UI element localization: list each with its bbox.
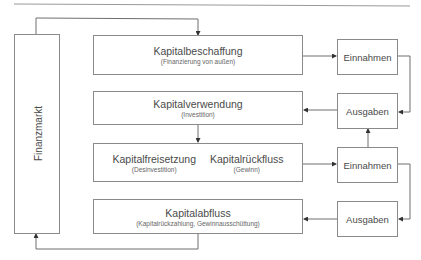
kapitalfreisetzung-rueckfluss-box: Kapitalfreisetzung (Desinvestition) Kapi…	[93, 143, 303, 182]
einnahmen-label-1: Einnahmen	[343, 52, 391, 63]
kapitalbeschaffung-box: Kapitalbeschaffung (Finanzierung von auß…	[93, 35, 303, 75]
kapitalrueckfluss-subtitle: (Gewinn)	[234, 166, 260, 173]
kapitalabfluss-subtitle: (Kapitalrückzahlung, Gewinnausschüttung)	[136, 220, 260, 227]
kapitalabfluss-title: Kapitalabfluss	[165, 207, 230, 219]
ausgaben-box-2: Ausgaben	[337, 201, 398, 237]
finanzmarkt-label: Finanzmarkt	[33, 84, 44, 184]
kapitalbeschaffung-title: Kapitalbeschaffung	[153, 45, 242, 57]
ausgaben-label-1: Ausgaben	[346, 106, 389, 117]
kapitalverwendung-title: Kapitalverwendung	[153, 98, 242, 110]
ausgaben-label-2: Ausgaben	[346, 214, 389, 225]
kapitalrueckfluss-title: Kapitalrückfluss	[210, 153, 284, 165]
kapitalfreisetzung-subtitle: (Desinvestition)	[132, 166, 177, 173]
kapitalverwendung-box: Kapitalverwendung (Investition)	[93, 91, 303, 125]
ausgaben-box-1: Ausgaben	[337, 93, 398, 129]
kapitalabfluss-box: Kapitalabfluss (Kapitalrückzahlung, Gewi…	[93, 199, 303, 234]
kapitalverwendung-subtitle: (Investition)	[181, 111, 215, 118]
kapitalbeschaffung-subtitle: (Finanzierung von außen)	[161, 58, 235, 65]
finanzmarkt-box: Finanzmarkt	[14, 34, 60, 234]
einnahmen-box-1: Einnahmen	[337, 39, 398, 75]
kapitalfreisetzung-title: Kapitalfreisetzung	[113, 153, 196, 165]
einnahmen-label-2: Einnahmen	[343, 160, 391, 171]
einnahmen-box-2: Einnahmen	[337, 147, 398, 183]
